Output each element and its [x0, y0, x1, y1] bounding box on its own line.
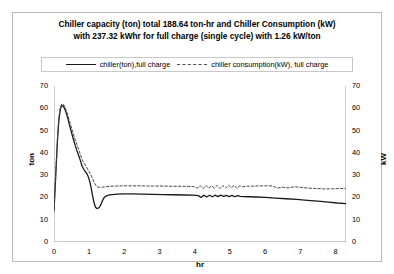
legend-label-chiller-consumption: chiller consumption(kW), full charge — [211, 60, 328, 69]
legend-label-chiller-ton: chiller(ton),full charge — [100, 60, 171, 69]
chart-legend: chiller(ton),full charge chiller consump… — [41, 57, 353, 72]
chart-title: Chiller capacity (ton) total 188.64 ton-… — [21, 19, 373, 42]
series-line-0 — [54, 105, 346, 210]
x-tick-label-1: 1 — [83, 247, 95, 256]
y-tick-label-right-6: 60 — [352, 103, 368, 112]
y-tick-label-right-0: 0 — [352, 237, 368, 246]
chart-plot-svg — [54, 86, 346, 242]
y-tick-label-right-5: 50 — [352, 126, 368, 135]
x-axis-label: hr — [54, 260, 346, 269]
y-tick-label-right-7: 70 — [352, 81, 368, 90]
legend-dashed-line-icon — [177, 64, 207, 65]
y-tick-label-left-1: 10 — [32, 215, 48, 224]
chart-frame: Chiller capacity (ton) total 188.64 ton-… — [12, 12, 382, 262]
legend-entry-chiller-consumption: chiller consumption(kW), full charge — [177, 60, 328, 69]
legend-solid-line-icon — [66, 64, 96, 65]
x-tick-label-8: 8 — [329, 247, 341, 256]
y-tick-label-left-5: 50 — [32, 126, 48, 135]
y-tick-label-right-1: 10 — [352, 215, 368, 224]
y-tick-label-left-7: 70 — [32, 81, 48, 90]
y-tick-label-right-4: 40 — [352, 148, 368, 157]
y-axis-label-right: kW — [379, 153, 388, 165]
x-tick-label-5: 5 — [224, 247, 236, 256]
x-tick-label-0: 0 — [48, 247, 60, 256]
legend-entry-chiller-ton: chiller(ton),full charge — [66, 60, 171, 69]
y-tick-label-left-6: 60 — [32, 103, 48, 112]
x-tick-label-3: 3 — [154, 247, 166, 256]
chart-title-line-2: with 237.32 kWhr for full charge (single… — [21, 31, 373, 43]
chart-title-line-1: Chiller capacity (ton) total 188.64 ton-… — [21, 19, 373, 31]
y-tick-label-left-2: 20 — [32, 192, 48, 201]
x-tick-label-2: 2 — [118, 247, 130, 256]
y-tick-label-left-3: 30 — [32, 170, 48, 179]
x-tick-label-6: 6 — [259, 247, 271, 256]
x-tick-label-4: 4 — [189, 247, 201, 256]
plot-area — [54, 86, 346, 242]
series-line-1 — [54, 104, 346, 210]
y-tick-label-right-3: 30 — [352, 170, 368, 179]
y-tick-label-left-4: 40 — [32, 148, 48, 157]
y-tick-label-right-2: 20 — [352, 192, 368, 201]
x-tick-label-7: 7 — [294, 247, 306, 256]
y-tick-label-left-0: 0 — [32, 237, 48, 246]
